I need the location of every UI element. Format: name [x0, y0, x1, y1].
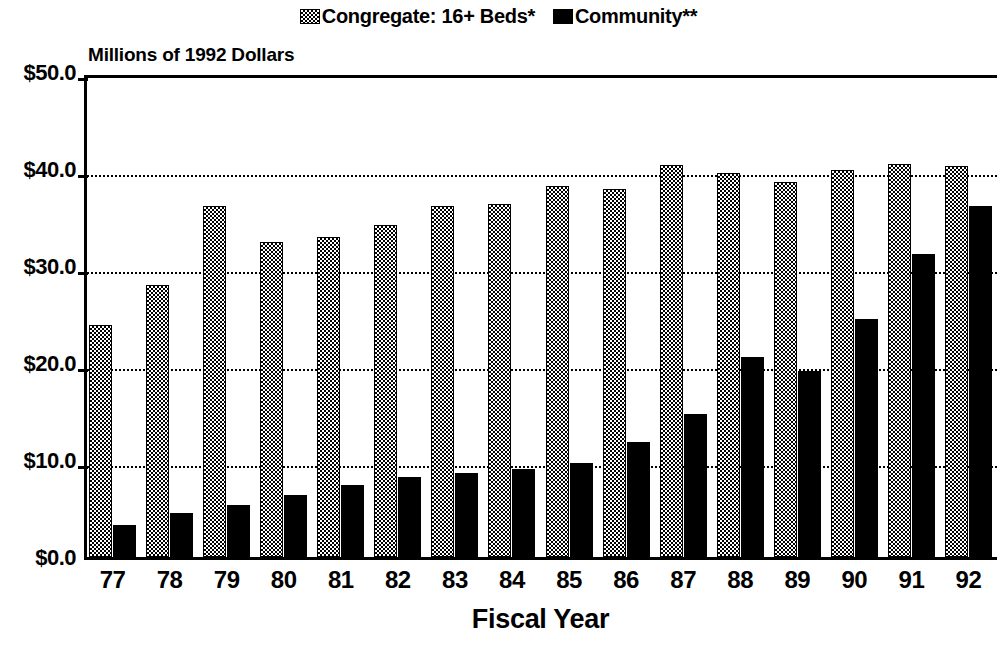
bar-community-80 [284, 495, 307, 557]
chart-legend: Congregate: 16+ Beds* Community** [0, 0, 997, 32]
bar-congregate-89 [774, 182, 797, 557]
bar-congregate-92 [945, 166, 968, 557]
x-axis-tick-label-82: 82 [369, 566, 426, 594]
x-axis-tick-label-89: 89 [769, 566, 826, 594]
bar-congregate-81 [317, 237, 340, 557]
plot-area [84, 75, 997, 560]
x-axis-tick-label-90: 90 [826, 566, 883, 594]
y-axis-tick-label: $20.0 [23, 351, 76, 377]
x-axis-tick-label-78: 78 [141, 566, 198, 594]
bar-congregate-91 [888, 164, 911, 557]
legend-label-congregate: Congregate: 16+ Beds* [322, 5, 535, 28]
bar-congregate-90 [831, 170, 854, 557]
x-axis-tick-label-80: 80 [255, 566, 312, 594]
x-axis-tick-labels: 77787980818283848586878889909192 [84, 566, 997, 600]
bar-community-84 [512, 469, 535, 557]
legend-item-congregate: Congregate: 16+ Beds* [300, 5, 535, 28]
bar-community-85 [570, 463, 593, 557]
legend-swatch-checkered-icon [300, 9, 320, 24]
bar-congregate-84 [488, 204, 511, 557]
x-axis-tick-label-79: 79 [198, 566, 255, 594]
x-axis-tick-label-86: 86 [598, 566, 655, 594]
bar-congregate-83 [431, 206, 454, 557]
y-axis-tick-label: $10.0 [23, 448, 76, 474]
legend-label-community: Community** [575, 5, 697, 28]
x-axis-tick-label-81: 81 [312, 566, 369, 594]
legend-item-community: Community** [553, 5, 697, 28]
x-axis-tick-label-87: 87 [655, 566, 712, 594]
bar-community-87 [684, 414, 707, 557]
bar-community-78 [170, 513, 193, 557]
x-axis-title: Fiscal Year [84, 604, 997, 635]
bar-community-86 [627, 442, 650, 557]
x-axis-tick-label-84: 84 [483, 566, 540, 594]
x-axis-tick-label-77: 77 [84, 566, 141, 594]
legend-swatch-solid-icon [553, 9, 573, 24]
bar-congregate-85 [546, 186, 569, 558]
bar-congregate-77 [89, 325, 112, 557]
bar-community-91 [912, 254, 935, 557]
x-axis-tick-label-91: 91 [883, 566, 940, 594]
bar-congregate-87 [660, 165, 683, 557]
y-axis-tick-label: $0.0 [35, 545, 76, 571]
bar-congregate-82 [374, 225, 397, 557]
y-axis-tick-label: $40.0 [23, 157, 76, 183]
bar-congregate-88 [717, 173, 740, 557]
y-axis-tick-labels: $0.0$10.0$20.0$30.0$40.0$50.0 [0, 0, 76, 649]
bar-community-90 [855, 319, 878, 557]
bar-congregate-78 [146, 285, 169, 557]
bar-congregate-79 [203, 206, 226, 557]
bar-community-83 [455, 473, 478, 557]
y-axis-tick-label: $50.0 [23, 60, 76, 86]
x-axis-tick-label-85: 85 [541, 566, 598, 594]
bar-community-89 [798, 371, 821, 557]
bar-community-82 [398, 477, 421, 557]
bar-community-92 [969, 206, 992, 557]
bar-community-79 [227, 505, 250, 557]
bar-congregate-86 [603, 189, 626, 557]
bar-community-77 [113, 525, 136, 557]
bar-congregate-80 [260, 242, 283, 557]
x-axis-tick-label-92: 92 [940, 566, 997, 594]
y-axis-title: Millions of 1992 Dollars [88, 44, 294, 66]
bar-community-88 [741, 357, 764, 557]
x-axis-tick-label-83: 83 [426, 566, 483, 594]
bar-group-container [87, 78, 997, 557]
x-axis-tick-label-88: 88 [712, 566, 769, 594]
y-axis-tick-label: $30.0 [23, 254, 76, 280]
bar-community-81 [341, 485, 364, 557]
